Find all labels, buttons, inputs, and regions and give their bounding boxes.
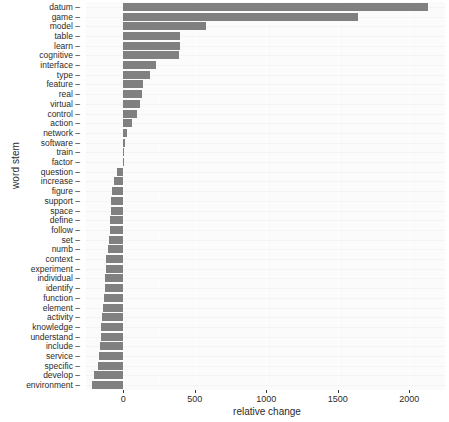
bar-row [86,32,445,40]
y-tick-label: table – [0,32,80,40]
x-tick-label: 2000 [389,394,429,404]
bar[interactable] [123,42,179,50]
y-tick-label: software – [0,139,80,147]
x-tick-label: 1000 [246,394,286,404]
bar-row [86,381,445,389]
bar[interactable] [123,3,428,11]
bar[interactable] [99,352,123,360]
bar[interactable] [110,226,124,234]
bar[interactable] [123,139,125,147]
bar-row [86,255,445,263]
bar-row [86,342,445,350]
y-tick-label: define – [0,216,80,224]
y-tick-label: identify – [0,284,80,292]
x-tick-mark [338,390,339,393]
y-tick-label: control – [0,110,80,118]
bar[interactable] [112,187,123,195]
x-axis-title: relative change [117,406,417,417]
y-tick-label: space – [0,207,80,215]
bar[interactable] [123,51,179,59]
y-tick-label: factor – [0,158,80,166]
y-tick-label: context – [0,255,80,263]
bar-row [86,333,445,341]
bar[interactable] [105,274,123,282]
bar-row [86,236,445,244]
x-tick-label: 500 [175,394,215,404]
bar[interactable] [108,245,123,253]
bar[interactable] [111,197,123,205]
bar[interactable] [106,255,123,263]
x-tick-mark [266,390,267,393]
bar[interactable] [110,216,123,224]
y-tick-label: type – [0,71,80,79]
y-tick-label: support – [0,197,80,205]
bar-row [86,51,445,59]
bar-row [86,304,445,312]
y-tick-label: develop – [0,371,80,379]
bar-row [86,274,445,282]
y-tick-label: game – [0,13,80,21]
bar[interactable] [123,13,358,21]
bar[interactable] [123,61,156,69]
bar-row [86,139,445,147]
bar-row [86,245,445,253]
bar[interactable] [103,304,123,312]
bar[interactable] [123,158,124,166]
y-tick-label: knowledge – [0,323,80,331]
bar[interactable] [123,32,180,40]
bar[interactable] [105,284,123,292]
bar-row [86,100,445,108]
bar[interactable] [117,168,123,176]
bar[interactable] [123,80,143,88]
bar[interactable] [123,22,206,30]
y-tick-label: network – [0,129,80,137]
bar-chart: word stem relative change datum –game –m… [0,0,449,422]
y-tick-label: question – [0,168,80,176]
bar[interactable] [109,236,123,244]
y-tick-label: service – [0,352,80,360]
bar[interactable] [123,110,137,118]
bar-row [86,187,445,195]
y-tick-label: cognitive – [0,51,80,59]
bar[interactable] [123,119,132,127]
bar[interactable] [102,313,123,321]
bar-row [86,158,445,166]
y-tick-label: interface – [0,61,80,69]
y-tick-label: specific – [0,362,80,370]
bar[interactable] [123,129,127,137]
y-tick-label: include – [0,342,80,350]
bar[interactable] [100,342,123,350]
bar[interactable] [98,362,123,370]
y-tick-label: feature – [0,80,80,88]
y-tick-label: follow – [0,226,80,234]
bar[interactable] [114,177,123,185]
bar[interactable] [123,100,140,108]
bar-row [86,294,445,302]
bar[interactable] [94,371,123,379]
bar-row [86,323,445,331]
bar[interactable] [92,381,123,389]
y-tick-label: function – [0,294,80,302]
bar[interactable] [101,333,123,341]
bar[interactable] [123,148,124,156]
bar-row [86,61,445,69]
bar-row [86,197,445,205]
bar[interactable] [111,207,124,215]
y-tick-label: element – [0,304,80,312]
y-tick-label: action – [0,119,80,127]
bar[interactable] [123,90,142,98]
bar-row [86,216,445,224]
x-tick-mark [123,390,124,393]
bar-row [86,177,445,185]
y-tick-label: activity – [0,313,80,321]
bar[interactable] [106,265,123,273]
y-tick-label: increase – [0,177,80,185]
bar-row [86,362,445,370]
bar-row [86,13,445,21]
bar-row [86,80,445,88]
bar-row [86,352,445,360]
bar[interactable] [123,71,149,79]
bar[interactable] [101,323,123,331]
bar[interactable] [104,294,123,302]
y-tick-label: model – [0,22,80,30]
